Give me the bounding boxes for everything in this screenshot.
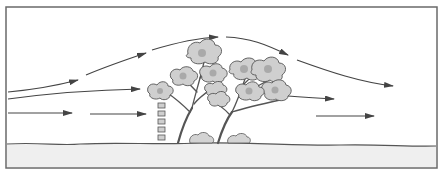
foliage-shade [264, 65, 272, 73]
foliage-shade [198, 49, 206, 57]
foliage-shade [210, 70, 217, 77]
foliage-shade [180, 73, 187, 80]
foliage-shade [157, 88, 163, 94]
fence-block [158, 103, 165, 108]
fence-block [158, 111, 165, 116]
fence-block [158, 135, 165, 140]
fence-block [158, 127, 165, 132]
fence-block [158, 119, 165, 124]
windbreak-diagram [0, 0, 443, 174]
foliage-shade [240, 65, 248, 73]
foliage-shade [272, 87, 279, 94]
foliage-shade [246, 88, 253, 95]
ground-area [7, 143, 436, 167]
